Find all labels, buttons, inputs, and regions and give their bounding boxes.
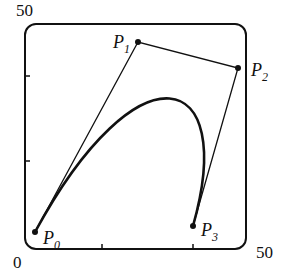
y-max-label: 50 [16, 1, 33, 20]
axis-ticks [25, 76, 193, 249]
point-p2-label: P2 [250, 60, 268, 84]
bezier-diagram: P0 P1 P2 P3 50 0 50 [0, 0, 287, 273]
point-p0-marker [32, 229, 38, 235]
x-max-label: 50 [256, 243, 273, 262]
point-p3-marker [190, 223, 196, 229]
point-p1-marker [135, 39, 141, 45]
point-p3-label: P3 [200, 220, 218, 244]
origin-label: 0 [13, 253, 22, 272]
control-polygon [35, 42, 238, 232]
plot-frame [25, 24, 246, 249]
point-p1-label: P1 [112, 32, 130, 56]
point-p2-marker [235, 65, 241, 71]
bezier-curve [35, 98, 204, 232]
